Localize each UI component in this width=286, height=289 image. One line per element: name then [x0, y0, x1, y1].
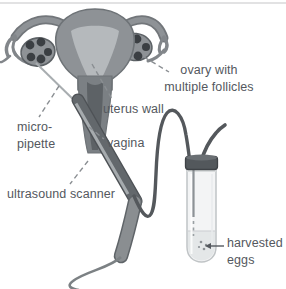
- probe-cable: [70, 257, 121, 289]
- label-micro-pipette: micro- pipette: [17, 119, 55, 152]
- label-micro-pipette-line2: pipette: [17, 136, 55, 153]
- leader-ultrasound: [70, 161, 88, 184]
- label-uterus-wall: uterus wall: [103, 101, 164, 118]
- label-harvested-eggs-line2: eggs: [227, 252, 283, 269]
- label-ovary: ovary with multiple follicles: [153, 62, 265, 95]
- label-harvested-eggs: harvested eggs: [227, 235, 283, 268]
- egg-retrieval-diagram: ovary with multiple follicles uterus wal…: [0, 0, 286, 289]
- label-ultrasound-scanner: ultrasound scanner: [7, 186, 115, 203]
- label-ovary-line2: multiple follicles: [153, 79, 265, 96]
- label-vagina: vagina: [107, 135, 144, 152]
- label-micro-pipette-line1: micro-: [17, 119, 55, 136]
- leader-micro-pipette: [39, 86, 59, 117]
- label-harvested-eggs-line1: harvested: [227, 235, 283, 252]
- label-ovary-line1: ovary with: [153, 62, 265, 79]
- probe-handle: [121, 202, 135, 256]
